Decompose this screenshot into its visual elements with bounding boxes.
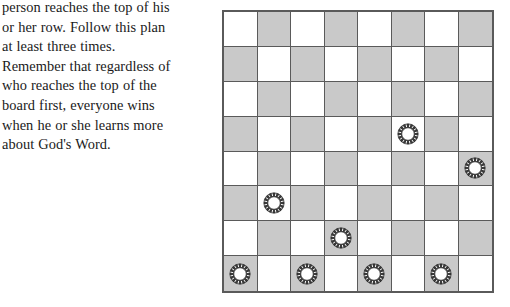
board-square[interactable]: [392, 82, 426, 117]
board-square[interactable]: [291, 221, 325, 256]
board-square[interactable]: [425, 186, 459, 221]
board-square[interactable]: [358, 221, 392, 256]
checker-piece-icon: [362, 262, 386, 286]
board-square[interactable]: [358, 12, 392, 47]
board-square[interactable]: [291, 186, 325, 221]
instructions-paragraph: person reaches the top of his or her row…: [2, 0, 216, 155]
board-square[interactable]: [358, 82, 392, 117]
board-square[interactable]: [224, 82, 258, 117]
board-square[interactable]: [392, 12, 426, 47]
board-square[interactable]: [358, 117, 392, 152]
checker-piece-icon: [396, 122, 420, 146]
checker-piece-icon: [228, 262, 252, 286]
board-square[interactable]: [325, 82, 359, 117]
checker-piece-icon: [463, 156, 487, 180]
board-square[interactable]: [258, 186, 292, 221]
board-square[interactable]: [459, 117, 493, 152]
instructions-line: board first, everyone wins: [2, 96, 216, 116]
board-square[interactable]: [459, 47, 493, 82]
board-square[interactable]: [358, 186, 392, 221]
board-square[interactable]: [291, 117, 325, 152]
board-square[interactable]: [358, 47, 392, 82]
board-square[interactable]: [459, 12, 493, 47]
board-square[interactable]: [358, 256, 392, 291]
board-square[interactable]: [392, 47, 426, 82]
board-square[interactable]: [325, 152, 359, 187]
board-square[interactable]: [224, 186, 258, 221]
checker-piece-icon: [262, 191, 286, 215]
board-square[interactable]: [459, 82, 493, 117]
board-square[interactable]: [392, 221, 426, 256]
board-square[interactable]: [224, 12, 258, 47]
board-square[interactable]: [258, 256, 292, 291]
board-square[interactable]: [258, 117, 292, 152]
board-square[interactable]: [358, 152, 392, 187]
board-square[interactable]: [325, 256, 359, 291]
board-square[interactable]: [425, 12, 459, 47]
board-square[interactable]: [425, 221, 459, 256]
board-square[interactable]: [325, 47, 359, 82]
board-square[interactable]: [425, 47, 459, 82]
board-square[interactable]: [425, 152, 459, 187]
board-square[interactable]: [392, 186, 426, 221]
instructions-line: at least three times.: [2, 37, 216, 57]
board-square[interactable]: [425, 256, 459, 291]
instructions-text-block: person reaches the top of his or her row…: [2, 0, 216, 155]
board-square[interactable]: [325, 117, 359, 152]
board-square[interactable]: [325, 221, 359, 256]
board-square[interactable]: [224, 47, 258, 82]
board-square[interactable]: [392, 256, 426, 291]
instructions-line: about God's Word.: [2, 135, 216, 155]
board-square[interactable]: [459, 186, 493, 221]
checker-piece-icon: [329, 226, 353, 250]
board-square[interactable]: [291, 152, 325, 187]
board-square[interactable]: [325, 12, 359, 47]
board-square[interactable]: [459, 256, 493, 291]
board-square[interactable]: [224, 152, 258, 187]
board-square[interactable]: [258, 152, 292, 187]
checkerboard-grid: [222, 10, 494, 293]
instructions-line: person reaches the top of his: [2, 0, 216, 18]
board-square[interactable]: [258, 82, 292, 117]
board-square[interactable]: [291, 47, 325, 82]
board-square[interactable]: [224, 117, 258, 152]
board-square[interactable]: [392, 117, 426, 152]
checker-piece-icon: [429, 262, 453, 286]
instructions-line: Remember that regardless of: [2, 57, 216, 77]
board-square[interactable]: [392, 152, 426, 187]
board-square[interactable]: [291, 256, 325, 291]
board-square[interactable]: [224, 256, 258, 291]
checkerboard-container: [222, 10, 494, 293]
page-root: person reaches the top of his or her row…: [0, 0, 510, 307]
board-square[interactable]: [459, 152, 493, 187]
instructions-line: who reaches the top of the: [2, 76, 216, 96]
board-square[interactable]: [258, 12, 292, 47]
board-square[interactable]: [258, 47, 292, 82]
board-square[interactable]: [325, 186, 359, 221]
board-square[interactable]: [291, 82, 325, 117]
board-square[interactable]: [224, 221, 258, 256]
board-square[interactable]: [258, 221, 292, 256]
board-square[interactable]: [459, 221, 493, 256]
instructions-line: when he or she learns more: [2, 116, 216, 136]
board-square[interactable]: [425, 82, 459, 117]
board-square[interactable]: [291, 12, 325, 47]
checker-piece-icon: [295, 262, 319, 286]
instructions-line: or her row. Follow this plan: [2, 18, 216, 38]
board-square[interactable]: [425, 117, 459, 152]
